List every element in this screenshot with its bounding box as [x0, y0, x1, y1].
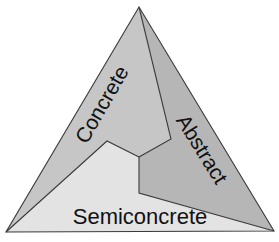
label-semiconcrete: Semiconcrete — [73, 204, 208, 229]
triangle-diagram: Concrete Abstract Semiconcrete — [0, 0, 279, 242]
diagram-svg: Concrete Abstract Semiconcrete — [0, 0, 279, 242]
